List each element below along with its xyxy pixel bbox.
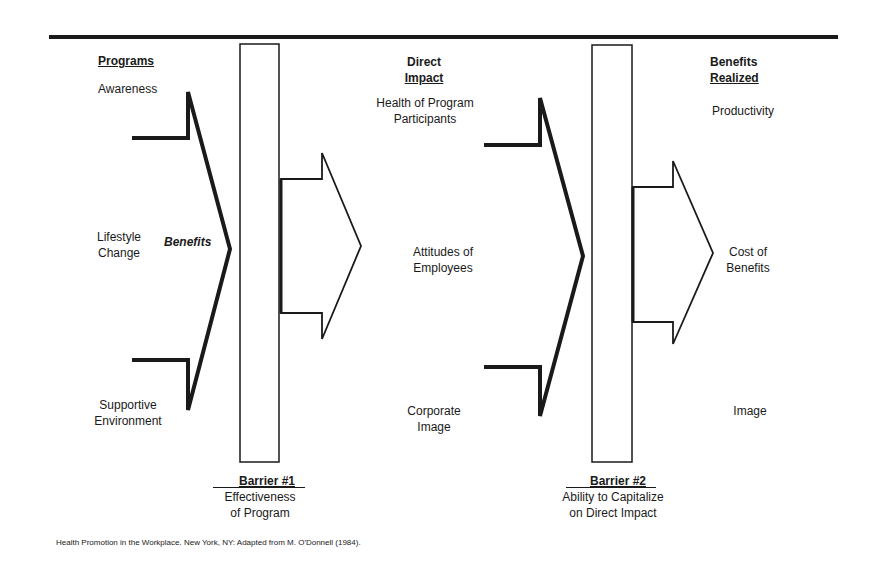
benefits-arrow-label: Benefits xyxy=(164,234,211,250)
program-awareness: Awareness xyxy=(98,81,157,97)
impact-corporate-image: Corporate Image xyxy=(394,403,474,435)
impact-attitudes-employees: Attitudes of Employees xyxy=(395,244,491,276)
benefit-image: Image xyxy=(728,403,772,419)
block-arrow-1 xyxy=(281,153,361,339)
barrier-1-description: Effectiveness of Program xyxy=(208,489,312,521)
barrier-2-bar xyxy=(592,45,632,462)
program-lifestyle-change: Lifestyle Change xyxy=(87,229,151,261)
benefit-productivity: Productivity xyxy=(698,103,788,119)
impact-health-participants: Health of Program Participants xyxy=(370,95,480,127)
barrier-2-description: Ability to Capitalize on Direct Impact xyxy=(548,489,678,521)
benefits-realized-header: Benefits Realized xyxy=(710,54,759,86)
benefit-cost-of-benefits: Cost of Benefits xyxy=(718,244,778,276)
barrier-1-rule xyxy=(213,487,305,488)
barrier-2-title: Barrier #2 xyxy=(580,474,656,488)
barrier-1-title: Barrier #1 xyxy=(229,474,305,488)
barrier-1-bar xyxy=(240,44,279,462)
source-caption: Health Promotion in the Workplace. New Y… xyxy=(56,538,361,547)
direct-impact-header: Direct Impact xyxy=(404,54,444,86)
programs-header: Programs xyxy=(98,53,154,69)
barrier-2-rule xyxy=(566,487,656,488)
program-supportive-environment: Supportive Environment xyxy=(88,397,168,429)
block-arrow-2 xyxy=(633,161,713,344)
impact-chevron-arrow xyxy=(484,98,583,416)
